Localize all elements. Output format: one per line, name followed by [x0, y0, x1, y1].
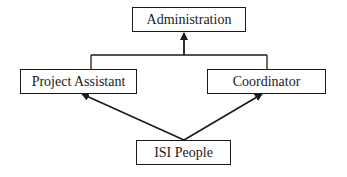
node-isi-people: ISI People — [136, 140, 231, 165]
node-label: Coordinator — [233, 74, 301, 90]
arrow-isi-to-project-assistant — [82, 94, 184, 140]
node-coordinator: Coordinator — [207, 69, 326, 94]
node-project-assistant: Project Assistant — [20, 69, 137, 94]
arrow-isi-to-coordinator — [184, 94, 262, 140]
node-label: Project Assistant — [32, 74, 126, 90]
node-administration: Administration — [132, 7, 246, 32]
node-label: Administration — [147, 12, 232, 28]
node-label: ISI People — [154, 145, 213, 161]
bracket-connector — [91, 55, 267, 69]
